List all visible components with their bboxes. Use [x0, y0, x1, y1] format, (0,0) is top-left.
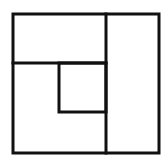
nested-squares-diagram: [0, 0, 168, 161]
outer-square: [13, 14, 159, 153]
inner-square: [59, 63, 106, 112]
